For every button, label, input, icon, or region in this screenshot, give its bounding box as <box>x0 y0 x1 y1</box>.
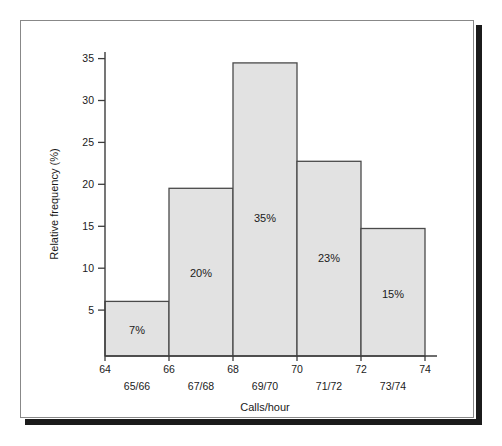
y-tick-label-35: 35 <box>82 52 94 64</box>
y-tick-label-10: 10 <box>82 262 94 274</box>
bin-label-69-70: 69/70 <box>252 380 278 392</box>
bar-69-70 <box>233 63 297 356</box>
x-tick-label-68: 68 <box>227 363 239 375</box>
x-tick-label-70: 70 <box>291 363 303 375</box>
bar-value-label-69-70: 35% <box>254 212 276 224</box>
bar-value-label-71-72: 23% <box>318 252 340 264</box>
x-tick-label-72: 72 <box>355 363 367 375</box>
y-tick-label-5: 5 <box>88 304 94 316</box>
chart-canvas: 5 10 15 20 25 30 35 64 66 68 70 72 74 65… <box>0 0 502 446</box>
x-tick-label-64: 64 <box>99 363 111 375</box>
histogram-figure: 5 10 15 20 25 30 35 64 66 68 70 72 74 65… <box>0 0 502 446</box>
bar-value-label-67-68: 20% <box>190 267 212 279</box>
y-tick-label-20: 20 <box>82 178 94 190</box>
y-tick-label-15: 15 <box>82 220 94 232</box>
bars-group <box>105 63 425 356</box>
y-tick-label-25: 25 <box>82 136 94 148</box>
y-axis-title: Relative frequency (%) <box>48 148 60 259</box>
bin-label-71-72: 71/72 <box>316 380 342 392</box>
x-axis-title: Calls/hour <box>240 401 290 413</box>
y-tick-label-30: 30 <box>82 94 94 106</box>
bar-value-label-73-74: 15% <box>382 288 404 300</box>
bin-label-73-74: 73/74 <box>380 380 406 392</box>
x-tick-label-66: 66 <box>163 363 175 375</box>
bar-value-label-65-66: 7% <box>129 324 145 336</box>
y-axis-ticks <box>98 59 105 311</box>
x-axis-ticks <box>105 356 425 361</box>
bin-label-65-66: 65/66 <box>124 380 150 392</box>
x-tick-label-74: 74 <box>419 363 431 375</box>
bin-label-67-68: 67/68 <box>188 380 214 392</box>
